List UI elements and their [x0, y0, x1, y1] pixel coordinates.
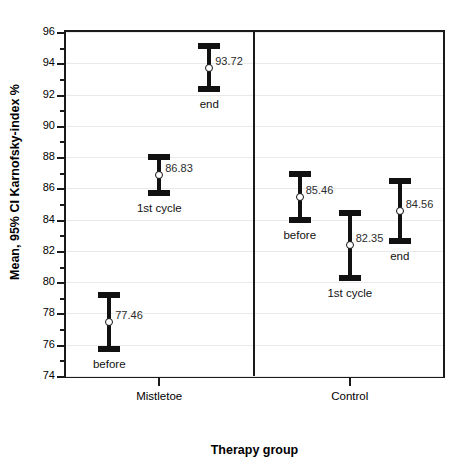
y-axis-minor-tick [60, 204, 64, 206]
y-axis-tick-label: 86 [22, 182, 55, 193]
x-axis-tick-label: Mistletoe [99, 390, 219, 402]
x-axis-title: Therapy group [64, 443, 445, 457]
error-bar [95, 292, 123, 352]
y-axis-tick-label: 80 [22, 276, 55, 287]
error-bar [386, 178, 414, 244]
y-axis-minor-tick [60, 235, 64, 237]
error-bar-cap-upper [98, 292, 120, 298]
group-divider-line [253, 32, 255, 376]
mean-value-label: 77.46 [115, 309, 143, 321]
y-axis-tick-label: 78 [22, 307, 55, 318]
gridline [66, 282, 443, 283]
mean-marker [205, 64, 213, 72]
y-axis-tick-label: 96 [22, 26, 55, 37]
y-axis-tick [57, 188, 64, 190]
error-bar-cap-lower [289, 217, 311, 223]
y-axis-minor-tick [60, 267, 64, 269]
y-axis-tick [57, 251, 64, 253]
mean-value-label: 85.46 [306, 184, 334, 196]
error-bar-cap-upper [289, 171, 311, 177]
plot-area: 77.46before86.831st cycle93.72end85.46be… [64, 30, 445, 378]
error-bar [195, 43, 223, 92]
mean-value-label: 93.72 [215, 55, 243, 67]
y-axis-tick [57, 376, 64, 378]
gridline [66, 126, 443, 127]
error-bar-cap-lower [198, 86, 220, 92]
y-axis-tick-label: 82 [22, 245, 55, 256]
gridline [66, 95, 443, 96]
y-axis-minor-tick [60, 79, 64, 81]
gridline [66, 376, 443, 377]
time-point-label: end [164, 98, 254, 110]
y-axis-tick-label: 74 [22, 370, 55, 381]
error-bar [286, 171, 314, 224]
y-axis-tick [57, 220, 64, 222]
error-bar-cap-lower [98, 346, 120, 352]
y-axis-minor-tick [60, 298, 64, 300]
y-axis-minor-tick [60, 110, 64, 112]
mean-marker [346, 241, 354, 249]
error-bar-cap-upper [339, 210, 361, 216]
mean-value-label: 86.83 [165, 162, 193, 174]
error-bar [145, 154, 173, 196]
y-axis-tick [57, 95, 64, 97]
mean-value-label: 82.35 [356, 232, 384, 244]
error-bar-cap-lower [389, 238, 411, 244]
error-bar-cap-upper [389, 178, 411, 184]
x-axis-tick-label: Control [290, 390, 410, 402]
y-axis-tick [57, 32, 64, 34]
y-axis-tick [57, 157, 64, 159]
y-axis-minor-tick [60, 141, 64, 143]
y-axis-tick-label: 88 [22, 151, 55, 162]
y-axis-tick [57, 345, 64, 347]
y-axis-tick-label: 84 [22, 214, 55, 225]
y-axis-tick [57, 282, 64, 284]
mean-marker [296, 193, 304, 201]
error-bar-cap-lower [148, 190, 170, 196]
y-axis-minor-tick [60, 360, 64, 362]
y-axis-tick-label: 92 [22, 89, 55, 100]
gridline [66, 63, 443, 64]
y-axis-minor-tick [60, 173, 64, 175]
y-axis-tick [57, 313, 64, 315]
time-point-label: 1st cycle [305, 287, 395, 299]
y-axis-tick-label: 76 [22, 339, 55, 350]
x-axis-tick [158, 378, 160, 386]
y-axis-tick-label: 90 [22, 120, 55, 131]
mean-marker [105, 318, 113, 326]
mean-marker [155, 171, 163, 179]
y-axis-tick [57, 63, 64, 65]
time-point-label: before [255, 229, 345, 241]
y-axis-tick [57, 126, 64, 128]
gridline [66, 32, 443, 33]
error-bar [336, 210, 364, 281]
time-point-label: before [64, 358, 154, 370]
chart-canvas: Mean, 95% CI Karnofsky-index % 77.46befo… [0, 0, 463, 470]
time-point-label: 1st cycle [114, 202, 204, 214]
y-axis-minor-tick [60, 329, 64, 331]
y-axis-title: Mean, 95% CI Karnofsky-index % [8, 17, 22, 347]
error-bar-cap-upper [148, 154, 170, 160]
mean-value-label: 84.56 [406, 198, 434, 210]
error-bar-cap-lower [339, 275, 361, 281]
x-axis-tick [349, 378, 351, 386]
mean-marker [396, 207, 404, 215]
gridline [66, 157, 443, 158]
y-axis-minor-tick [60, 48, 64, 50]
y-axis-tick-label: 94 [22, 57, 55, 68]
error-bar-cap-upper [198, 43, 220, 49]
time-point-label: end [355, 250, 445, 262]
